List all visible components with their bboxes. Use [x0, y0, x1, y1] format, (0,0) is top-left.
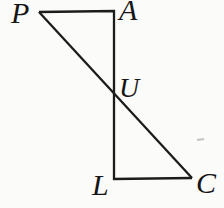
- vertex-label-a: A: [117, 0, 138, 26]
- vertex-label-l: L: [91, 168, 109, 201]
- vertex-label-c: C: [196, 166, 217, 199]
- vertex-label-p: P: [10, 0, 29, 29]
- geometry-figure: P A U L C: [0, 0, 224, 208]
- vertex-label-u: U: [119, 72, 141, 103]
- geometry-figure-canvas: P A U L C: [0, 0, 224, 208]
- scan-artifact-dash: [197, 139, 204, 140]
